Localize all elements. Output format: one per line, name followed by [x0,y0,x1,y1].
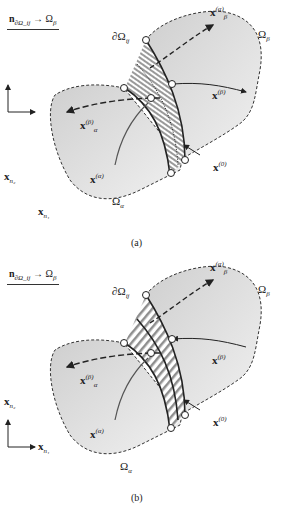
x-zero-label: x(0) [213,160,227,173]
caption-b: (b) [131,492,143,503]
diagram-b [0,255,282,510]
node [143,292,150,299]
normal-label: n∂Ω_ij → Ωβ [9,13,56,27]
domain-beta-label: Ωβ [258,283,270,298]
x-alpha-beta-label: x(β)α [80,118,97,134]
domain-alpha-label: Ωα [120,460,132,475]
caption-a: (a) [131,237,142,248]
node [169,336,176,343]
x-alpha-label: x(α) [90,427,104,440]
x-zero-label: x(0) [213,415,227,428]
boundary-label: ∂Ωij [112,30,130,45]
x-beta-alpha-label: x(α)β [210,260,227,276]
x-beta-label: x(β) [212,353,226,366]
x-beta-label: x(β) [212,88,226,101]
domain-beta-label: Ωβ [258,28,270,43]
node [182,412,189,419]
x-alpha-beta-label: x(β)α [80,373,97,389]
normal-label: n∂Ω_ij → Ωβ [9,268,56,282]
node [148,350,155,357]
x-beta-alpha-label: x(α)β [210,5,227,21]
node [182,157,189,164]
boundary-label: ∂Ωij [112,285,130,300]
panel-b: n∂Ω_ij → Ωβ ∂Ωij Ωβ Ωα x(α)β x(β) x(β)α … [0,255,282,510]
node [169,81,176,88]
axis-x2-label: xn₂ [4,395,15,410]
panel-a: n∂Ω_ij → Ωβ ∂Ωij Ωβ Ωα x(α)β x(β) x(β)α … [0,0,282,255]
axis-x1-label: xn₁ [38,205,49,220]
node [121,340,128,347]
node [143,37,150,44]
axis-x2-label: xn₂ [4,170,15,185]
domain-alpha-label: Ωα [112,195,124,210]
node [168,170,175,177]
x-alpha-label: x(α) [90,172,104,185]
node [168,425,175,432]
axis-x1-label: xn₁ [38,440,49,455]
node [148,95,155,102]
node [121,85,128,92]
divider-rule [7,29,59,30]
divider-rule [7,284,59,285]
